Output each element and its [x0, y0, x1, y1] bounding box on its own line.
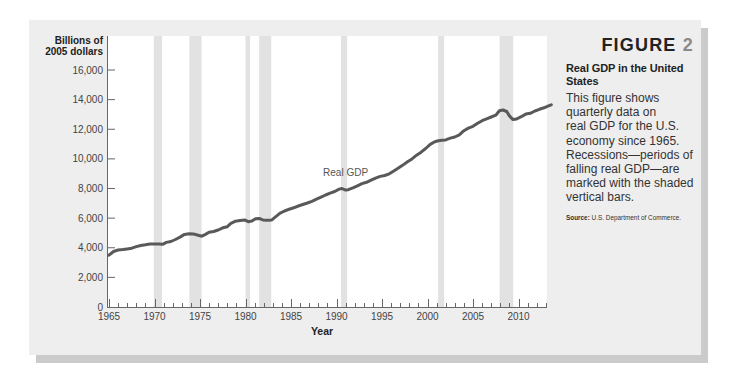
figure-label: FIGURE	[601, 35, 676, 55]
recession-bar	[259, 36, 271, 307]
y-tick-label: 14,000	[72, 94, 103, 105]
figure-heading: FIGURE 2	[566, 35, 694, 55]
recession-bar	[500, 36, 514, 307]
figure-source: Source: U.S. Department of Commerce.	[566, 214, 694, 222]
figure-title-line: States	[566, 75, 694, 88]
y-tick-label: 8,000	[78, 183, 103, 194]
description-line: falling real GDP—are	[566, 162, 694, 176]
figure-title-line: Real GDP in the United	[566, 62, 694, 75]
description-line: This figure shows	[566, 91, 694, 105]
description-line: quarterly data on	[566, 105, 694, 119]
figure-caption: FIGURE 2 Real GDP in the United States T…	[566, 35, 694, 222]
description-line: Recessions—periods of	[566, 148, 694, 162]
y-tick-label: 16,000	[72, 65, 103, 76]
description-line: economy since 1965.	[566, 134, 694, 148]
x-tick-label: 1965	[98, 311, 121, 322]
recession-bar	[154, 36, 162, 307]
description-line: real GDP for the U.S.	[566, 119, 694, 133]
source-text: U.S. Department of Commerce.	[592, 214, 682, 221]
y-tick-label: 12,000	[72, 124, 103, 135]
x-tick-label: 1985	[280, 311, 303, 322]
y-axis-title-line-2: 2005 dollars	[45, 46, 103, 57]
annotations: Real GDP	[323, 167, 368, 178]
recession-bar	[246, 36, 251, 307]
source-label: Source:	[566, 214, 590, 221]
x-tick-label: 2000	[416, 311, 439, 322]
figure-number: 2	[683, 35, 694, 55]
y-axis-title-line-1: Billions of	[45, 35, 103, 46]
y-tick-label: 6,000	[78, 213, 103, 224]
recession-bar	[438, 36, 444, 307]
x-tick-label: 2010	[507, 311, 530, 322]
x-tick-label: 1970	[143, 311, 166, 322]
figure-title: Real GDP in the United States	[566, 62, 694, 88]
x-axis-title: Year	[292, 325, 352, 337]
x-tick-label: 2005	[462, 311, 485, 322]
x-tick-label: 1990	[325, 311, 348, 322]
series-label: Real GDP	[323, 167, 368, 178]
description-line: marked with the shaded	[566, 176, 694, 190]
figure-page: 02,0004,0006,0008,00010,00012,00014,0001…	[0, 0, 733, 388]
y-axis-title: Billions of 2005 dollars	[45, 35, 103, 57]
x-tick-label: 1975	[189, 311, 212, 322]
recession-bar	[189, 36, 201, 307]
description-line: vertical bars.	[566, 190, 694, 204]
x-tick-label: 1995	[371, 311, 394, 322]
y-tick-label: 10,000	[72, 153, 103, 164]
y-tick-label: 2,000	[78, 272, 103, 283]
y-tick-label: 4,000	[78, 242, 103, 253]
x-tick-label: 1980	[234, 311, 257, 322]
figure-description: This figure shows quarterly data on real…	[566, 91, 694, 205]
